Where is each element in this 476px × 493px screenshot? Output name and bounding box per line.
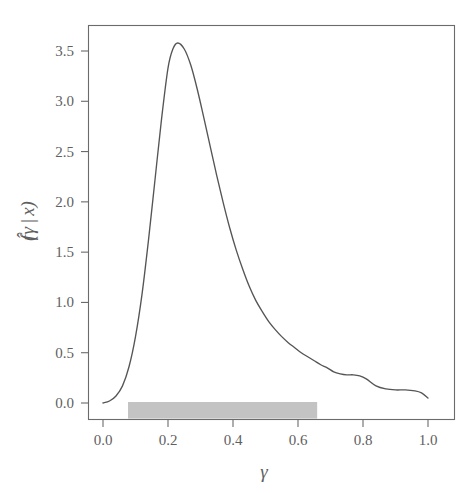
y-tick-label: 3.0 (55, 93, 74, 109)
plot-frame (89, 26, 455, 420)
y-tick-label: 1.0 (55, 294, 74, 310)
y-tick-label: 2.0 (55, 194, 74, 210)
x-axis-ticks: 0.00.20.40.60.81.0 (94, 420, 438, 449)
credible-interval-bar-group (128, 402, 317, 419)
y-tick-label: 3.5 (55, 43, 74, 59)
x-tick-label: 0.4 (224, 432, 243, 448)
y-tick-label: 1.5 (55, 244, 74, 260)
density-plot-figure: 0.00.51.01.52.02.53.03.5 0.00.20.40.60.8… (0, 0, 476, 493)
y-tick-label: 0.5 (55, 345, 74, 361)
y-axis-title-group: f̂(γ|x) (17, 201, 39, 241)
credible-interval-bar (128, 402, 317, 419)
x-tick-label: 0.8 (354, 432, 373, 448)
y-tick-label: 0.0 (55, 395, 74, 411)
y-axis-ticks: 0.00.51.01.52.02.53.03.5 (55, 43, 88, 411)
y-axis-title: f̂(γ|x) (17, 201, 39, 241)
plot-canvas: 0.00.51.01.52.02.53.03.5 0.00.20.40.60.8… (0, 0, 476, 493)
x-axis-title: γ (260, 461, 268, 482)
x-tick-label: 0.0 (94, 432, 113, 448)
x-tick-label: 0.6 (289, 432, 308, 448)
x-tick-label: 0.2 (159, 432, 178, 448)
y-tick-label: 2.5 (55, 144, 74, 160)
x-tick-label: 1.0 (419, 432, 438, 448)
density-curve (103, 43, 428, 403)
